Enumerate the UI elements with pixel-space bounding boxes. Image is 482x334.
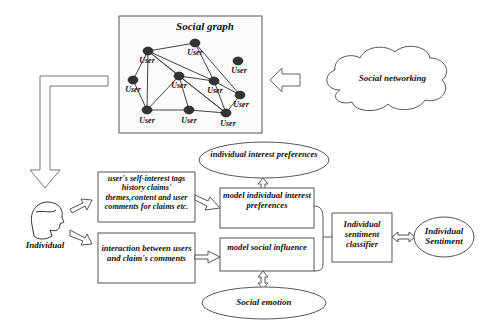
classifier-text: Individual sentiment classifier xyxy=(334,220,390,250)
individual-label: Individual xyxy=(16,240,74,250)
user-label: User xyxy=(200,86,230,95)
diagram-canvas xyxy=(0,0,482,334)
user-label: User xyxy=(180,48,210,57)
arrow-box2-to-model2-icon xyxy=(195,251,220,263)
model-box-1-text: model individual interest preferences xyxy=(222,191,312,211)
input-box-1-text: user's self-interest tags history claims… xyxy=(100,174,193,212)
user-label: User xyxy=(174,116,204,125)
ellipse-interest-preferences xyxy=(199,142,329,178)
user-label: User xyxy=(226,100,256,109)
user-label: User xyxy=(118,85,148,94)
arrow-cloud-to-graph-icon xyxy=(270,68,300,92)
social-graph-title: Social graph xyxy=(160,20,250,33)
arrow-graph-to-individual-icon xyxy=(30,76,108,188)
arrow-individual-to-box1-icon xyxy=(70,199,92,213)
user-label: User xyxy=(210,119,246,128)
user-label: User xyxy=(132,116,162,125)
user-label: User xyxy=(132,56,162,65)
bracket-connector xyxy=(314,206,323,271)
ellipse-bottom-text: Social emotion xyxy=(214,297,314,307)
user-label: User xyxy=(164,81,194,90)
arrow-box1-to-model1-icon xyxy=(195,195,220,210)
user-label: User xyxy=(224,66,254,75)
individual-person-icon xyxy=(31,202,64,239)
input-box-2-text: interaction between users and claim's co… xyxy=(100,244,193,264)
double-arrow-output-icon xyxy=(392,232,415,242)
social-networking-label: Social networking xyxy=(345,73,440,83)
ellipse-top-text: individual interest preferences xyxy=(210,150,318,160)
double-arrow-bottom-icon xyxy=(258,271,268,289)
output-text: Individual Sentiment xyxy=(416,226,472,247)
model-box-2-text: model social influence xyxy=(222,243,312,253)
